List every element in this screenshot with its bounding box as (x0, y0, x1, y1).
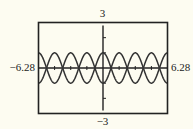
axes (39, 23, 168, 114)
plot-area (0, 0, 193, 129)
